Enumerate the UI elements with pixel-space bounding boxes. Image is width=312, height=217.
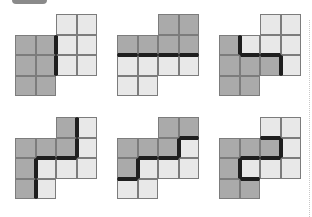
dark-cell <box>179 117 200 138</box>
light-cell <box>260 35 281 56</box>
fig-1 <box>15 14 97 96</box>
light-cell <box>56 14 77 35</box>
dark-cell <box>15 76 36 97</box>
light-cell <box>281 117 302 138</box>
dark-cell <box>158 35 179 56</box>
light-cell <box>77 158 98 179</box>
light-cell <box>260 158 281 179</box>
dark-cell <box>117 158 138 179</box>
fig-6 <box>219 117 301 199</box>
light-cell <box>179 158 200 179</box>
light-cell <box>158 55 179 76</box>
dark-cell <box>36 55 57 76</box>
dark-cell <box>219 76 240 97</box>
light-cell <box>179 138 200 159</box>
dark-cell <box>117 138 138 159</box>
light-cell <box>281 158 302 179</box>
dark-cell <box>15 138 36 159</box>
light-cell <box>260 14 281 35</box>
light-cell <box>117 55 138 76</box>
light-cell <box>77 14 98 35</box>
dark-cell <box>36 35 57 56</box>
dark-cell <box>15 35 36 56</box>
light-cell <box>138 55 159 76</box>
fig-4 <box>15 117 97 199</box>
dark-cell <box>15 158 36 179</box>
light-cell <box>77 117 98 138</box>
dark-cell <box>138 35 159 56</box>
dark-cell <box>15 55 36 76</box>
dark-cell <box>158 14 179 35</box>
dark-cell <box>260 55 281 76</box>
dark-cell <box>56 138 77 159</box>
light-cell <box>260 117 281 138</box>
light-cell <box>77 35 98 56</box>
dark-cell <box>240 179 261 200</box>
light-cell <box>36 179 57 200</box>
light-cell <box>240 158 261 179</box>
dark-cell <box>240 76 261 97</box>
dark-cell <box>219 179 240 200</box>
fig-3 <box>219 14 301 96</box>
dark-cell <box>158 138 179 159</box>
dark-cell <box>219 138 240 159</box>
light-cell <box>138 158 159 179</box>
light-cell <box>158 158 179 179</box>
light-cell <box>117 179 138 200</box>
dark-cell <box>260 138 281 159</box>
dark-cell <box>240 138 261 159</box>
dark-cell <box>36 76 57 97</box>
dark-cell <box>158 117 179 138</box>
light-cell <box>56 55 77 76</box>
light-cell <box>56 158 77 179</box>
dark-cell <box>56 117 77 138</box>
dark-cell <box>219 35 240 56</box>
light-cell <box>179 55 200 76</box>
dark-cell <box>219 158 240 179</box>
light-cell <box>77 138 98 159</box>
figure-label-tab <box>12 0 47 4</box>
light-cell <box>56 35 77 56</box>
light-cell <box>138 76 159 97</box>
light-cell <box>281 55 302 76</box>
dark-cell <box>179 35 200 56</box>
light-cell <box>36 158 57 179</box>
light-cell <box>281 35 302 56</box>
page-edge-divider <box>309 20 310 217</box>
fig-2 <box>117 14 199 96</box>
light-cell <box>117 76 138 97</box>
dark-cell <box>36 138 57 159</box>
dark-cell <box>219 55 240 76</box>
light-cell <box>138 179 159 200</box>
dark-cell <box>138 138 159 159</box>
fig-5 <box>117 117 199 199</box>
light-cell <box>240 35 261 56</box>
light-cell <box>281 14 302 35</box>
light-cell <box>281 138 302 159</box>
dark-cell <box>15 179 36 200</box>
dark-cell <box>179 14 200 35</box>
dark-cell <box>117 35 138 56</box>
light-cell <box>77 55 98 76</box>
dark-cell <box>240 55 261 76</box>
